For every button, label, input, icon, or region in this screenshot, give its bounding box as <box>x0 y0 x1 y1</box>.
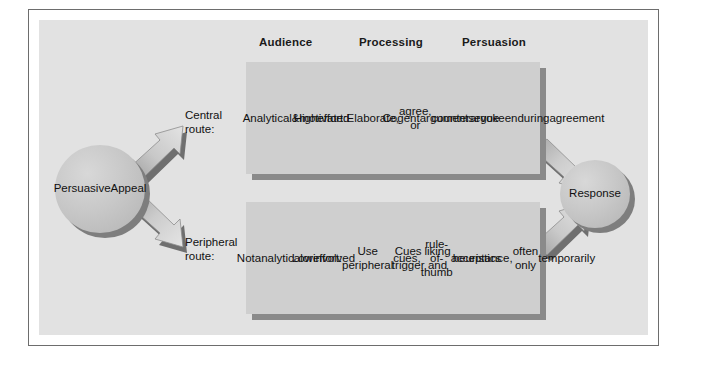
peripheral-route-label-line1: Peripheral <box>185 235 237 249</box>
central-cell-persuasion: Cogentargumentsevokeenduringagreement <box>447 62 540 174</box>
persuasive-appeal-circle: PersuasiveAppeal <box>55 145 145 233</box>
central-box-shadow-bottom <box>252 174 546 180</box>
peripheral-route-box: Notanalyticalorinvolved Loweffort:Use pe… <box>246 202 540 314</box>
peripheral-route-label-line2: route: <box>185 249 237 263</box>
elaboration-likelihood-model-figure: Audience Processing Persuasion <box>0 0 705 366</box>
column-header-persuasion: Persuasion <box>462 36 526 48</box>
response-circle: Response <box>560 160 630 228</box>
column-header-processing: Processing <box>359 36 423 48</box>
peripheral-cell-persuasion: Cues triggerliking andacceptance,often o… <box>447 202 540 314</box>
central-route-label: Central route: <box>185 108 222 136</box>
central-route-label-line1: Central <box>185 108 222 122</box>
peripheral-route-label: Peripheral route: <box>185 235 237 263</box>
central-route-label-line2: route: <box>185 122 222 136</box>
column-header-audience: Audience <box>259 36 312 48</box>
central-route-box: Analytical&motivated Higheffort:Elaborat… <box>246 62 540 174</box>
peripheral-box-shadow-bottom <box>252 314 546 320</box>
